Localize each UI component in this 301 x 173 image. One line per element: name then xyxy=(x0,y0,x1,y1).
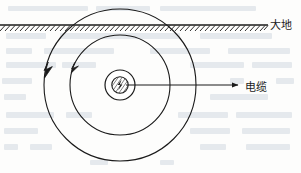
ground-hatching xyxy=(0,26,268,32)
flow-direction-arrows xyxy=(44,62,78,78)
outer-flow-arrow xyxy=(44,62,52,78)
diagram-canvas: 大地 电缆 xyxy=(0,0,301,173)
cable-label: 电缆 xyxy=(245,78,268,94)
ground-label: 大地 xyxy=(270,16,293,32)
